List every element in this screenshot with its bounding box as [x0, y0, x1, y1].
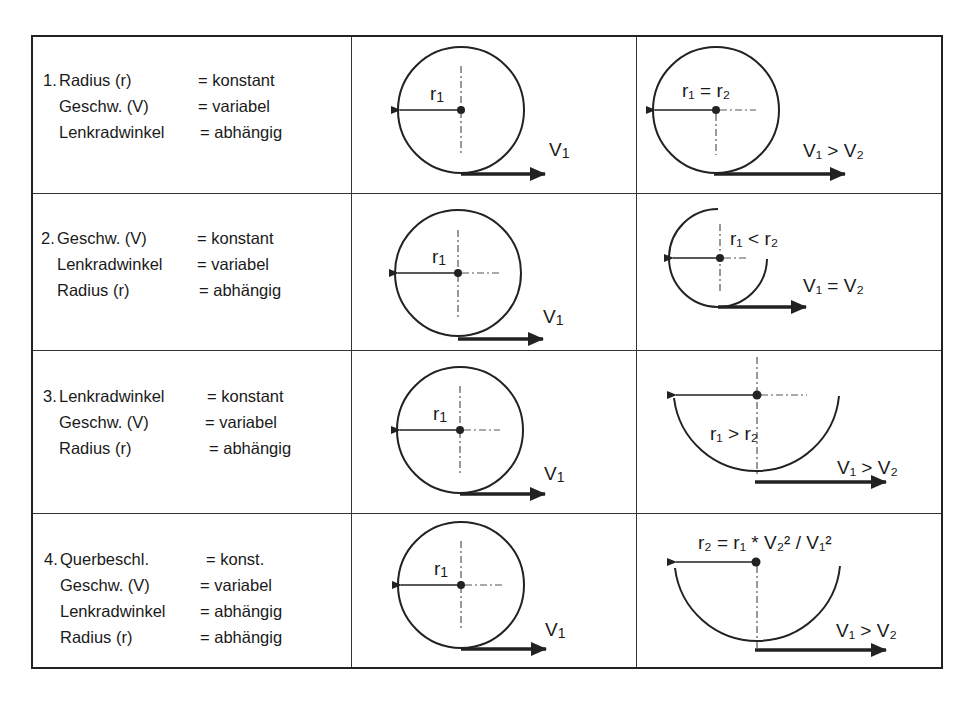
- circle-diagram-row2-case1: r1 V1: [395, 210, 564, 339]
- radius-label: r1: [430, 83, 444, 105]
- velocity-relation-label: V₁ > V₂: [837, 457, 898, 478]
- circle-diagram-row3-case1: r1 V1: [397, 367, 565, 494]
- circle-diagram-row1-case2: r₁ = r₂ V₁ > V₂: [653, 47, 864, 174]
- velocity-relation-label: V₁ > V₂: [836, 620, 897, 641]
- arc-diagram-row4-case2: r₂ = r₁ * V₂² / V₁² V₁ > V₂: [675, 532, 897, 650]
- radius-label: r1: [433, 403, 447, 425]
- radius-relation-label: r₁ = r₂: [682, 80, 730, 101]
- velocity-relation-label: V₁ = V₂: [803, 275, 864, 296]
- center-point: [753, 391, 762, 400]
- center-point: [454, 269, 462, 277]
- radius-relation-label: r₁ > r₂: [710, 423, 758, 444]
- velocity-label: V1: [543, 306, 564, 328]
- velocity-label: V1: [549, 139, 570, 161]
- circle-diagram-row4-case1: r1 V1: [398, 522, 566, 649]
- radius-label: r1: [434, 558, 448, 580]
- arc-diagram-row3-case2: r₁ > r₂ V₁ > V₂: [674, 357, 898, 482]
- diagram-layer: r1 V1 r1 V1 r1 V1 r1 V1: [0, 0, 971, 701]
- center-point: [457, 581, 465, 589]
- center-point: [456, 426, 464, 434]
- center-point: [457, 106, 465, 114]
- center-point: [716, 254, 724, 262]
- velocity-relation-label: V₁ > V₂: [803, 140, 864, 161]
- velocity-label: V1: [544, 463, 565, 485]
- arc-diagram-row2-case2: r₁ < r₂ V₁ = V₂: [669, 209, 864, 307]
- circle-diagram-row1-case1: r1 V1: [398, 47, 570, 174]
- radius-relation-label: r₁ < r₂: [730, 228, 778, 249]
- center-point: [712, 106, 720, 114]
- center-point: [752, 558, 761, 567]
- radius-label: r1: [432, 246, 446, 268]
- radius-formula-label: r₂ = r₁ * V₂² / V₁²: [698, 532, 832, 553]
- velocity-label: V1: [545, 619, 566, 641]
